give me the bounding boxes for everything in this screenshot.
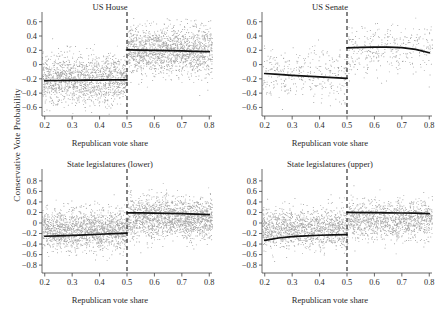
fit-line-fit-left <box>265 74 347 79</box>
y-tick-label: 0.8 <box>247 177 257 186</box>
panel-x-axis-label: Republican vote share <box>220 138 440 148</box>
y-tick-label: −0.4 <box>22 240 38 249</box>
scatter-points <box>262 185 433 262</box>
panel-state-legislatures-upper: State legislatures (upper) −0.8−0.6−0.4−… <box>220 157 440 313</box>
plot-area: −0.8−0.6−0.4−0.200.20.40.60.80.20.30.40.… <box>0 157 220 313</box>
fit-line-fit-left <box>45 80 127 81</box>
y-tick-label: −0.6 <box>22 250 37 259</box>
x-tick-label: 0.8 <box>424 278 434 287</box>
panel-state-legislatures-lower: State legislatures (lower) −0.8−0.6−0.4−… <box>0 157 220 313</box>
y-tick-label: 0 <box>253 219 257 228</box>
x-tick-label: 0.2 <box>260 278 270 287</box>
x-tick-label: 0.5 <box>342 121 352 130</box>
x-tick-label: 0.8 <box>204 121 214 130</box>
x-tick-label: 0.4 <box>94 121 105 130</box>
panel-us-house: US House −0.6−0.4−0.200.20.40.60.20.30.4… <box>0 0 220 156</box>
y-tick-label: 0.6 <box>247 187 257 196</box>
y-tick-label: 0.2 <box>247 208 257 217</box>
x-tick-label: 0.6 <box>369 278 379 287</box>
y-tick-label: 0.2 <box>247 46 257 55</box>
plot-area: −0.8−0.6−0.4−0.200.20.40.60.80.20.30.40.… <box>220 157 440 313</box>
x-tick-label: 0.7 <box>397 278 407 287</box>
y-tick-label: 0.8 <box>27 177 37 186</box>
y-tick-label: −0.2 <box>22 75 37 84</box>
x-tick-label: 0.8 <box>204 278 214 287</box>
y-tick-label: 0.2 <box>27 208 37 217</box>
x-tick-label: 0.7 <box>397 121 407 130</box>
x-tick-label: 0.3 <box>67 278 77 287</box>
x-tick-label: 0.5 <box>122 278 132 287</box>
fit-line-fit-right <box>347 212 429 213</box>
y-tick-label: 0.4 <box>247 198 258 207</box>
panel-x-axis-label: Republican vote share <box>0 138 220 148</box>
x-tick-label: 0.4 <box>94 278 105 287</box>
y-tick-label: 0.6 <box>27 18 37 27</box>
y-tick-label: −0.4 <box>242 89 258 98</box>
x-tick-label: 0.7 <box>177 121 187 130</box>
plot-area: −0.6−0.4−0.200.20.40.60.20.30.40.50.60.7… <box>220 0 440 156</box>
y-tick-label: −0.2 <box>242 229 257 238</box>
x-tick-label: 0.2 <box>40 121 50 130</box>
x-tick-label: 0.6 <box>149 278 159 287</box>
plot-area: −0.6−0.4−0.200.20.40.60.20.30.40.50.60.7… <box>0 0 220 156</box>
x-tick-label: 0.6 <box>149 121 159 130</box>
x-tick-label: 0.6 <box>369 121 379 130</box>
y-tick-label: 0 <box>33 60 37 69</box>
scatter-points <box>42 18 213 115</box>
panel-x-axis-label: Republican vote share <box>0 295 220 305</box>
y-tick-label: −0.6 <box>242 103 257 112</box>
y-tick-label: −0.2 <box>22 229 37 238</box>
x-tick-label: 0.4 <box>314 278 325 287</box>
x-tick-label: 0.3 <box>287 278 297 287</box>
x-tick-label: 0.3 <box>67 121 77 130</box>
x-tick-label: 0.5 <box>122 121 132 130</box>
y-tick-label: 0.4 <box>27 198 38 207</box>
y-tick-label: 0.4 <box>247 32 258 41</box>
y-tick-label: −0.2 <box>242 75 257 84</box>
x-tick-label: 0.2 <box>40 278 50 287</box>
y-tick-label: 0.2 <box>27 46 37 55</box>
figure-regression-discontinuity-panels: Conservative Vote Probability US House −… <box>0 0 440 313</box>
y-tick-label: 0 <box>253 60 257 69</box>
y-tick-label: −0.8 <box>22 261 37 270</box>
x-tick-label: 0.4 <box>314 121 325 130</box>
y-tick-label: −0.6 <box>22 103 37 112</box>
y-tick-label: −0.4 <box>22 89 38 98</box>
y-tick-label: −0.8 <box>242 261 257 270</box>
fit-line-fit-right <box>347 47 429 53</box>
x-tick-label: 0.5 <box>342 278 352 287</box>
y-tick-label: 0.6 <box>247 18 257 27</box>
y-tick-label: 0.6 <box>27 187 37 196</box>
y-tick-label: 0 <box>33 219 37 228</box>
y-tick-label: −0.6 <box>242 250 257 259</box>
fit-line-fit-left <box>265 235 347 241</box>
x-tick-label: 0.3 <box>287 121 297 130</box>
y-tick-label: −0.4 <box>242 240 258 249</box>
x-tick-label: 0.7 <box>177 278 187 287</box>
panel-us-senate: US Senate −0.6−0.4−0.200.20.40.60.20.30.… <box>220 0 440 156</box>
x-tick-label: 0.2 <box>260 121 270 130</box>
y-tick-label: 0.4 <box>27 32 38 41</box>
x-tick-label: 0.8 <box>424 121 434 130</box>
panel-x-axis-label: Republican vote share <box>220 295 440 305</box>
